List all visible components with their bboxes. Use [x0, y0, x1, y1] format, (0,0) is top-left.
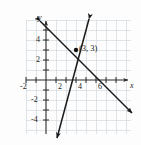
y-axis-label: y [38, 14, 42, 22]
y-tick-label-2: 2 [36, 56, 40, 64]
x-tick-label-2: 2 [58, 83, 62, 91]
intersection-label: (3, 3) [79, 44, 97, 53]
coordinate-graph [0, 0, 141, 145]
x-tick-label-6: 6 [98, 83, 102, 91]
axes [26, 21, 128, 134]
y-tick-label--2: -2 [31, 96, 38, 104]
x-tick-label-4: 4 [78, 83, 82, 91]
y-tick-label--4: -4 [31, 116, 38, 124]
figure-container: . [0, 0, 141, 145]
grid-lines [26, 20, 131, 134]
x-axis-label: x [130, 82, 134, 90]
intersection-point [74, 48, 78, 52]
y-tick-label-4: 4 [36, 36, 40, 44]
x-tick-label--2: -2 [20, 83, 27, 91]
